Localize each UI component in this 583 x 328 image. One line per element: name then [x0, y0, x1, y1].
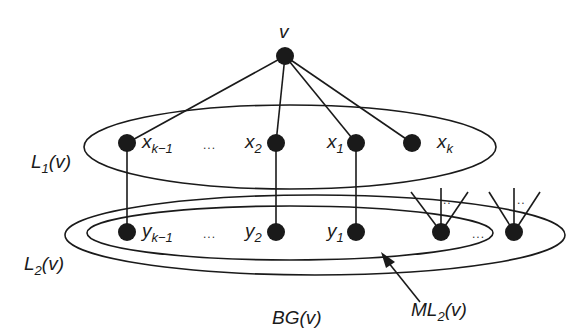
node-x-k: [403, 134, 421, 152]
node-y-1: [347, 223, 365, 241]
edge-v-x1: [285, 56, 356, 143]
node-y-2: [267, 223, 285, 241]
fan-ellipsis-a: ..: [443, 193, 452, 207]
node-extra-b: [505, 223, 523, 241]
xk-label: xk: [437, 132, 453, 151]
node-x-1: [347, 134, 365, 152]
y2-label: y2: [245, 221, 262, 240]
l2-set-ellipse: [65, 195, 565, 275]
node-y-k-1: [118, 223, 136, 241]
ml2-arrow-shaft: [388, 262, 420, 302]
x1-label: x1: [327, 132, 344, 151]
l1-ellipsis: ...: [203, 138, 216, 152]
yk1-label: yk−1: [142, 221, 173, 240]
bg-label: BG(v): [272, 308, 322, 327]
fan-ellipsis-b: ..: [517, 193, 526, 207]
xk1-label: xk−1: [142, 132, 173, 151]
edge-v-x2: [276, 56, 285, 143]
edge-v-xk1: [127, 56, 285, 143]
node-v: [276, 47, 294, 65]
l2-ellipsis: ...: [203, 227, 216, 241]
root-label: v: [279, 22, 289, 41]
node-x-k-1: [118, 134, 136, 152]
edge-v-xk: [285, 56, 412, 143]
ml2-label: ML2(v): [411, 300, 467, 319]
node-extra-a: [432, 223, 450, 241]
l2-set-label: L2(v): [24, 254, 64, 273]
l2-extra-ellipsis: ...: [472, 227, 485, 241]
y1-label: y1: [327, 221, 344, 240]
node-x-2: [267, 134, 285, 152]
ml2-arrow-head: [381, 252, 395, 268]
x2-label: x2: [245, 132, 262, 151]
l1-set-label: L1(v): [31, 152, 71, 171]
